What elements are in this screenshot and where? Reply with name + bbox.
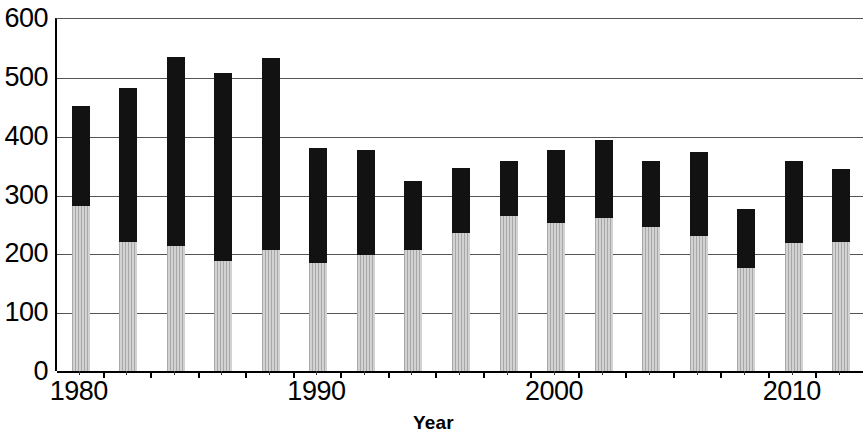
bar-segment-lower: [72, 206, 90, 371]
x-axis-tick: [792, 371, 793, 375]
bar-segment-upper: [785, 161, 803, 243]
bar-segment-lower: [595, 218, 613, 371]
x-axis-tick: [411, 371, 412, 375]
bar-segment-lower: [547, 223, 565, 371]
x-axis-tick: [697, 371, 698, 375]
x-axis-tick: [364, 371, 365, 375]
bar-column: [642, 161, 660, 371]
x-tick-label: 2010: [747, 378, 837, 405]
bar-column: [547, 150, 565, 371]
x-axis-tick: [174, 371, 175, 375]
bar-column: [737, 209, 755, 371]
x-axis-tick: [435, 371, 437, 378]
bar-column: [500, 161, 518, 371]
bar-segment-upper: [595, 140, 613, 218]
bar-segment-lower: [500, 216, 518, 371]
bar-segment-upper: [167, 57, 185, 246]
bar-segment-upper: [547, 150, 565, 223]
chart-container: 6005004003002001000 1980199020002010 Yea…: [0, 0, 867, 435]
y-tick-label: 300: [0, 182, 48, 209]
bar-column: [785, 161, 803, 371]
x-axis-tick: [459, 371, 460, 375]
bar-segment-upper: [357, 150, 375, 254]
bar-segment-upper: [404, 181, 422, 250]
x-axis-tick: [483, 371, 485, 378]
x-axis-tick: [554, 371, 555, 375]
bar-segment-upper: [119, 88, 137, 242]
x-axis-tick: [602, 371, 603, 375]
y-tick-label: 500: [0, 64, 48, 91]
bar-segment-upper: [452, 168, 470, 233]
bar-segment-lower: [357, 255, 375, 371]
bar-segment-upper: [309, 148, 327, 263]
x-axis-tick: [720, 371, 722, 378]
y-tick-label: 600: [0, 5, 48, 32]
bar-column: [309, 148, 327, 371]
bar-segment-lower: [214, 261, 232, 371]
bar-column: [452, 168, 470, 371]
x-axis-tick: [839, 371, 840, 375]
x-axis-tick: [198, 371, 200, 378]
y-tick-label: 100: [0, 299, 48, 326]
x-axis-tick: [316, 371, 317, 375]
bar-segment-lower: [404, 250, 422, 371]
bar-segment-lower: [452, 233, 470, 371]
bar-segment-lower: [832, 242, 850, 371]
x-axis-tick: [625, 371, 627, 378]
bar-column: [262, 58, 280, 371]
bar-column: [404, 181, 422, 371]
bar-segment-upper: [690, 152, 708, 236]
x-axis-tick: [673, 371, 675, 378]
bar-column: [214, 73, 232, 371]
x-axis-title: Year: [0, 412, 867, 434]
bar-column: [690, 152, 708, 371]
bar-segment-lower: [785, 243, 803, 371]
x-axis-tick: [744, 371, 745, 375]
plot-area: [55, 18, 863, 371]
bar-segment-upper: [737, 209, 755, 268]
bar-segment-upper: [832, 169, 850, 242]
bar-segment-lower: [262, 250, 280, 371]
x-axis-tick: [649, 371, 650, 375]
y-tick-label: 400: [0, 123, 48, 150]
bar-segment-upper: [214, 73, 232, 261]
bar-segment-lower: [642, 227, 660, 371]
x-axis-tick: [507, 371, 508, 375]
x-axis-tick: [79, 371, 80, 375]
bar-column: [357, 150, 375, 371]
x-axis-tick: [221, 371, 222, 375]
bar-column: [119, 88, 137, 371]
x-tick-label: 1980: [34, 378, 124, 405]
bar-segment-upper: [500, 161, 518, 216]
y-tick-label: 200: [0, 240, 48, 267]
bar-segment-lower: [690, 236, 708, 371]
bar-column: [832, 169, 850, 371]
x-axis-tick: [269, 371, 270, 375]
bar-segment-upper: [72, 106, 90, 206]
x-tick-label: 1990: [271, 378, 361, 405]
bar-column: [595, 140, 613, 371]
x-axis-tick: [126, 371, 127, 375]
bar-segment-lower: [119, 242, 137, 371]
bar-segment-lower: [309, 263, 327, 371]
bar-segment-upper: [262, 58, 280, 250]
x-axis-ticks: [55, 371, 863, 379]
x-axis-tick: [150, 371, 152, 378]
bar-column: [72, 106, 90, 371]
bar-segment-upper: [642, 161, 660, 227]
bar-column: [167, 57, 185, 371]
x-tick-label: 2000: [509, 378, 599, 405]
bar-segment-lower: [167, 246, 185, 371]
x-axis-tick: [245, 371, 247, 378]
x-axis-tick: [388, 371, 390, 378]
bar-segment-lower: [737, 268, 755, 371]
